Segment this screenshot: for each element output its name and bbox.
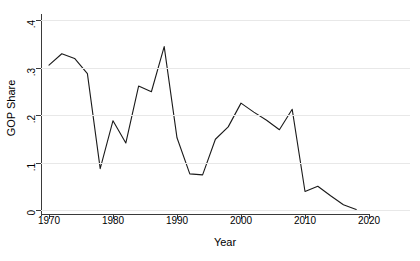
gridline-y — [41, 163, 410, 164]
gop-share-line-chart: GOP Share Year 0.1.2.3.41970198019902000… — [0, 0, 420, 261]
x-tick-label: 1990 — [157, 215, 197, 227]
y-axis-title-text: GOP Share — [5, 80, 17, 137]
y-tick-label: .2 — [12, 109, 34, 121]
x-tick-label: 1980 — [93, 215, 133, 227]
gridline-y — [41, 115, 410, 116]
y-tick-label: .3 — [12, 62, 34, 74]
x-tick-label: 2020 — [349, 215, 389, 227]
x-axis-title: Year — [30, 236, 420, 248]
gridline-y — [41, 210, 410, 211]
y-tick-label: .1 — [12, 157, 34, 169]
gridline-y — [41, 20, 410, 21]
x-tick-label: 2000 — [221, 215, 261, 227]
y-axis-title: GOP Share — [2, 0, 20, 216]
gridline-y — [41, 68, 410, 69]
x-tick-label: 1970 — [29, 215, 69, 227]
y-tick-label: .4 — [12, 14, 34, 26]
gop-share-line — [49, 47, 356, 210]
x-tick-label: 2010 — [285, 215, 325, 227]
